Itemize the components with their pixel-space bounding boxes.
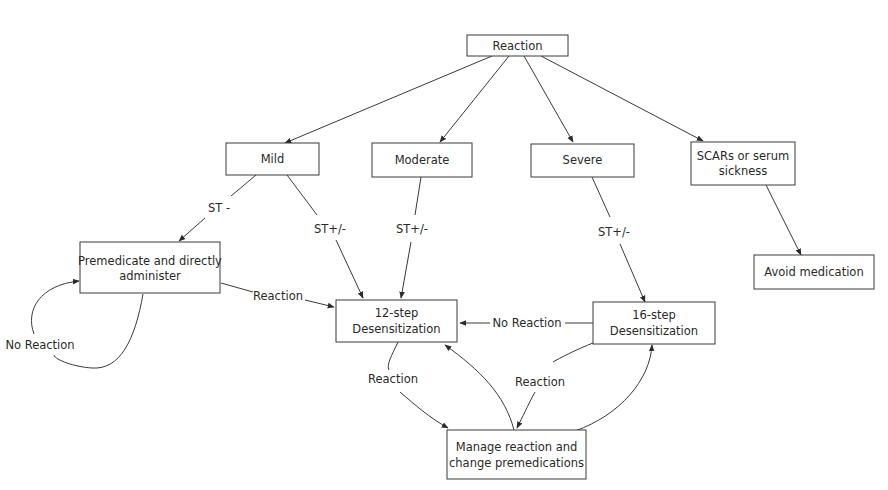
node-manage: Manage reaction and change premedication… <box>447 430 586 479</box>
edge-16step-manage <box>553 343 593 362</box>
node-mild-label: Mild <box>261 152 285 166</box>
edge-mild-12step <box>287 175 317 215</box>
edge-mild-12step <box>336 240 363 298</box>
node-16step-label-1: 16-step <box>632 308 676 322</box>
node-reaction-label: Reaction <box>493 39 543 53</box>
label-st-minus: ST - <box>208 201 230 215</box>
edge-16step-manage <box>517 392 535 428</box>
node-moderate-label: Moderate <box>395 153 450 167</box>
edge-scars-avoid <box>766 185 801 255</box>
node-manage-label-2: change premedications <box>449 456 584 470</box>
node-scars-label-2: sickness <box>719 164 768 178</box>
edge-12step-manage <box>388 342 398 370</box>
edge-severe-16step <box>592 177 610 217</box>
edge-premedicate-loop <box>54 294 143 368</box>
edge-severe-16step <box>620 244 645 302</box>
edge-reaction-moderate <box>440 56 509 142</box>
edge-premedicate-12step <box>305 300 334 307</box>
label-16-reaction: Reaction <box>515 375 565 389</box>
node-manage-label-1: Manage reaction and <box>456 440 578 454</box>
node-12step-label-2: Desensitization <box>352 322 440 336</box>
node-16step: 16-step Desensitization <box>593 302 715 344</box>
edge-mild-premedicate <box>179 218 205 241</box>
node-scars: SCARs or serum sickness <box>691 142 795 185</box>
node-12step-label-1: 12-step <box>375 306 419 320</box>
node-avoid: Avoid medication <box>754 255 874 289</box>
node-moderate: Moderate <box>372 143 472 177</box>
label-premedicate-reaction: Reaction <box>253 289 303 303</box>
node-premedicate-label-1: Premedicate and directly <box>78 254 222 268</box>
label-st-pm-mild: ST+/- <box>314 222 346 236</box>
edge-moderate-12step <box>401 242 411 298</box>
node-avoid-label: Avoid medication <box>764 265 863 279</box>
edge-reaction-mild <box>285 56 492 143</box>
edge-manage-12step <box>445 345 514 430</box>
edge-premedicate-loop <box>31 281 79 334</box>
node-premedicate: Premedicate and directly administer <box>78 242 222 293</box>
node-premedicate-label-2: administer <box>119 269 181 283</box>
node-scars-label-1: SCARs or serum <box>697 149 790 163</box>
node-severe-label: Severe <box>563 153 603 167</box>
label-12-reaction: Reaction <box>368 372 418 386</box>
label-16-no-reaction: No Reaction <box>492 316 561 330</box>
label-st-pm-severe: ST+/- <box>598 225 630 239</box>
edge-12step-manage <box>400 392 448 428</box>
node-12step: 12-step Desensitization <box>336 300 457 342</box>
node-severe: Severe <box>531 144 634 177</box>
node-reaction: Reaction <box>467 35 568 56</box>
edge-moderate-12step <box>415 177 421 215</box>
label-premedicate-no-reaction: No Reaction <box>5 338 74 352</box>
flowchart: ST - ST+/- ST+/- ST+/- Reaction No React… <box>0 0 888 490</box>
edge-manage-16step <box>575 345 652 431</box>
edge-mild-premedicate <box>231 175 256 196</box>
edge-labels: ST - ST+/- ST+/- ST+/- Reaction No React… <box>5 201 630 389</box>
label-st-pm-moderate: ST+/- <box>396 222 428 236</box>
node-mild: Mild <box>226 143 319 175</box>
edge-premedicate-12step <box>221 283 253 292</box>
node-16step-label-2: Desensitization <box>610 324 698 338</box>
